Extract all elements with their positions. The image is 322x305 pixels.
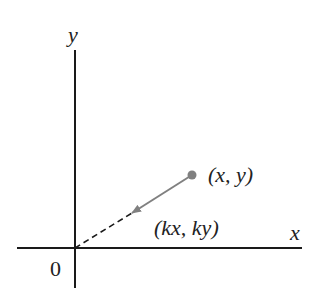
scaling-arrow — [132, 175, 192, 213]
point-label: (x, y) — [208, 162, 253, 187]
coordinate-diagram: y x 0 (x, y) (kx, ky) — [0, 0, 322, 305]
origin-label: 0 — [50, 256, 61, 281]
point-dot — [188, 171, 197, 180]
x-axis-label: x — [289, 220, 300, 245]
dashed-line — [75, 213, 132, 248]
scaled-point-label: (kx, ky) — [154, 215, 219, 240]
y-axis-label: y — [66, 22, 78, 47]
